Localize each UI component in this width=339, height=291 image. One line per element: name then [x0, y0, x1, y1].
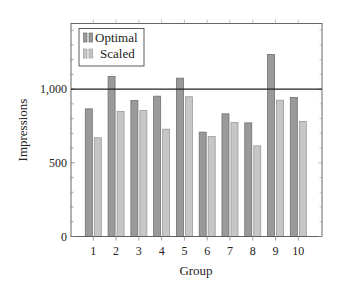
- y-tick-label: 1,000: [40, 82, 67, 96]
- x-tick-label: 6: [204, 244, 210, 258]
- bar-optimal-group-9: [268, 54, 275, 236]
- x-tick-label: 10: [292, 244, 304, 258]
- bar-scaled-group-10: [299, 122, 306, 237]
- bar-scaled-group-4: [163, 129, 170, 236]
- bar-optimal-group-7: [222, 114, 229, 237]
- bar-optimal-group-2: [108, 77, 115, 237]
- x-axis-label: Group: [179, 263, 212, 278]
- bar-optimal-group-10: [290, 98, 297, 237]
- y-tick-label: 500: [49, 156, 67, 170]
- x-tick-label: 9: [273, 244, 279, 258]
- svg-text:Scaled: Scaled: [100, 46, 135, 61]
- bar-optimal-group-5: [176, 78, 183, 236]
- bar-scaled-group-1: [94, 138, 101, 237]
- x-tick-label: 8: [250, 244, 256, 258]
- bar-scaled-group-3: [140, 110, 147, 236]
- legend: OptimalScaled: [79, 29, 144, 67]
- legend-swatch-icon: [84, 49, 88, 58]
- bars-group: [85, 54, 306, 236]
- y-axis-label: Impressions: [15, 99, 30, 162]
- bar-optimal-group-1: [85, 109, 92, 237]
- bar-scaled-group-5: [185, 97, 192, 237]
- legend-swatch-icon: [84, 33, 88, 42]
- bar-optimal-group-4: [154, 96, 161, 236]
- x-tick-label: 1: [90, 244, 96, 258]
- x-tick-label: 5: [181, 244, 187, 258]
- x-tick-label: 2: [113, 244, 119, 258]
- bar-optimal-group-8: [245, 123, 252, 237]
- bar-scaled-group-9: [277, 100, 284, 236]
- bar-optimal-group-3: [131, 100, 138, 236]
- legend-swatch-icon: [89, 33, 93, 42]
- x-tick-label: 4: [159, 244, 165, 258]
- bar-optimal-group-6: [199, 132, 206, 236]
- bar-chart: 05001,00012345678910 OptimalScaled Group…: [0, 0, 339, 291]
- bar-scaled-group-6: [208, 137, 215, 237]
- y-tick-label: 0: [61, 230, 67, 244]
- x-tick-label: 3: [136, 244, 142, 258]
- bar-scaled-group-2: [117, 112, 124, 237]
- legend-swatch-icon: [89, 49, 93, 58]
- svg-text:Optimal: Optimal: [95, 30, 138, 45]
- bar-scaled-group-7: [231, 123, 238, 237]
- x-tick-label: 7: [227, 244, 233, 258]
- bar-scaled-group-8: [254, 146, 261, 237]
